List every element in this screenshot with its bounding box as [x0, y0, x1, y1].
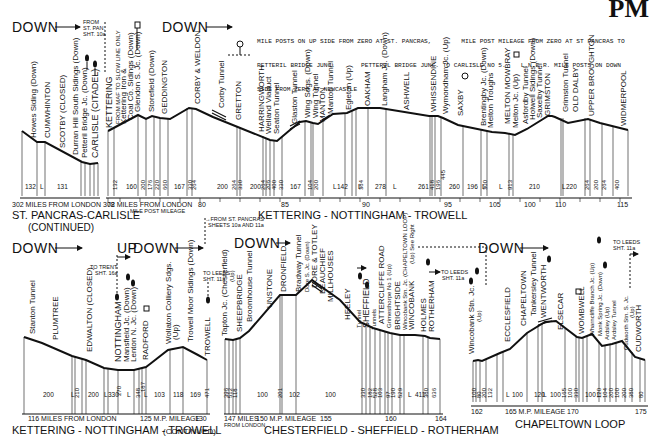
panel-chesterfield-sheffield-rotherham: →FROM ST. PANCRAS SHEETS 10a AND 11a DOW… [205, 213, 499, 436]
svg-text:167: 167 [290, 183, 301, 190]
station-glaston-tunnel: Glaston Tunnel [290, 70, 299, 124]
svg-text:200: 200 [621, 387, 627, 398]
svg-text:196: 196 [467, 183, 478, 190]
station-oakham: OAKHAM [363, 71, 372, 106]
station-widmerpool: WIDMERPOOL [619, 70, 628, 126]
station-manton-tunnel: Manton Tunnel [326, 61, 335, 114]
axis-label-miles: 72 MILES FROM LONDON [107, 201, 192, 208]
svg-text:913: 913 [507, 179, 513, 190]
svg-text:167: 167 [174, 183, 185, 190]
signal-box-icon [135, 22, 140, 28]
svg-text:170: 170 [567, 408, 579, 415]
svg-text:110: 110 [555, 201, 566, 208]
station-trowell: TROWELL [203, 317, 212, 356]
svg-text:529: 529 [397, 387, 403, 398]
station-carlisle: CARLISLE (CITADEL) [90, 69, 100, 158]
station-cumwhinton: CUMWHINTON [43, 81, 52, 138]
svg-text:260: 260 [449, 183, 460, 190]
station-tankersley-tunnel: Tankersley Tunnel [529, 251, 538, 316]
station-heeley: HEELEY [343, 288, 352, 320]
axis-sublabel: MILE POST MILEAGE [130, 208, 186, 214]
svg-text:100: 100 [257, 391, 268, 398]
station-brightside: BRIGHTSIDE [393, 281, 402, 330]
svg-text:660: 660 [162, 179, 168, 190]
svg-text:175: 175 [635, 408, 647, 415]
svg-text:132: 132 [25, 183, 36, 190]
svg-text:380: 380 [423, 387, 429, 398]
svg-text:210: 210 [74, 387, 80, 398]
svg-text:278: 278 [375, 183, 386, 190]
svg-text:L: L [40, 183, 44, 190]
svg-text:L: L [543, 391, 547, 398]
direction-down-label: DOWN [12, 19, 58, 35]
svg-text:115: 115 [617, 201, 628, 208]
station-wincobank: WINCOBANK [407, 280, 416, 330]
axis-label-miles: 116 MILES FROM LONDON [28, 415, 117, 422]
station-old-dalby: OLD DALBY [571, 66, 580, 112]
svg-text:80: 80 [198, 201, 206, 208]
station-trowell-moor: Trowell Moor Sidings (Down) [186, 239, 195, 342]
svg-text:201: 201 [277, 387, 283, 398]
svg-text:100: 100 [512, 391, 523, 398]
station-ardsley: Ardsley (Up) [604, 307, 610, 340]
station-tapton-jc: Tapton Jc. (Chesterfield) [220, 249, 229, 336]
svg-text:384: 384 [358, 179, 364, 190]
station-lenton-jc: Lenton N. Jc. (Down) [129, 287, 138, 362]
direction-down-label: DOWN [234, 235, 280, 251]
axis-label-miles: 162 [471, 408, 483, 415]
svg-text:200: 200 [593, 179, 599, 190]
station-melton-jc: Melton Jc. (Up) [511, 73, 520, 128]
svg-text:100: 100 [524, 201, 536, 208]
svg-text:SHT. 11a: SHT. 11a [613, 245, 636, 251]
panel-kettering-nottingham-trowell-continued: DOWN UP DOWN TO TRENT SHT. 16a TO LEEDS … [12, 239, 230, 436]
svg-text:(Up): (Up) [171, 324, 180, 340]
svg-text:220: 220 [566, 183, 577, 190]
station-seaton-tunnel: Seaton Tunnel [272, 82, 281, 134]
svg-text:L: L [506, 391, 510, 398]
direction-down-label: DOWN [478, 240, 524, 256]
station-melton-troughs: Melton Troughs [486, 73, 495, 128]
station-monk-spring-jc: Monk Spring Jc. (Down) [597, 272, 603, 336]
svg-text:L: L [499, 183, 503, 190]
svg-text:131: 131 [57, 183, 68, 190]
svg-text:200: 200 [313, 179, 319, 190]
svg-text:400: 400 [614, 179, 620, 190]
station-wentworth: WENTWORTH [539, 264, 548, 318]
station-glendon: Glendon S. Jc. (Down) [133, 31, 142, 112]
svg-text:95: 95 [444, 201, 452, 208]
station-whissendine: WHISSENDINE [429, 56, 438, 112]
svg-text:105: 105 [489, 201, 501, 208]
svg-text:471: 471 [204, 387, 210, 398]
station-edwalton: EDWALTON (CLOSED) [85, 267, 94, 352]
station-ashwell: ASHWELL [402, 71, 411, 110]
svg-text:160: 160 [126, 183, 137, 190]
station-cudworth: CUDWORTH [634, 304, 643, 352]
svg-text:100: 100 [325, 391, 336, 398]
station-radford: RADFORD [141, 320, 150, 360]
panel-subtitle: (CONTINUED) [28, 222, 94, 233]
svg-text:85: 85 [281, 201, 289, 208]
svg-text:330: 330 [573, 387, 579, 398]
svg-text:100: 100 [614, 387, 620, 398]
svg-text:L: L [408, 391, 412, 398]
station-langham-jc: Langham Jc. (Down) [380, 32, 389, 106]
svg-text:300: 300 [482, 179, 488, 190]
station-kettering: KETTERING [104, 76, 114, 128]
svg-text:380: 380 [628, 387, 634, 398]
axis-label-miles: 302 MILES FROM LONDON 308 [12, 201, 115, 208]
station-cudworth-stn-jc: Cudworth Stn. S. Jc. [623, 295, 629, 350]
station-egleton: Egleton (Up) [344, 65, 353, 110]
station-geddington: GEDDINGTON [160, 60, 169, 114]
svg-text:164: 164 [435, 415, 447, 422]
svg-text:190: 190 [390, 387, 396, 398]
station-petteril-bridge: Petteril Bridge Jc. (Down) [80, 67, 89, 158]
station-elsecar: ELSECAR [556, 292, 565, 330]
svg-text:132: 132 [112, 179, 118, 190]
svg-text:400: 400 [271, 179, 277, 190]
station-attercliffe-road: ATTERCLIFFE ROAD [377, 245, 386, 324]
direction-down-label: DOWN [12, 240, 58, 256]
panel-kettering-nottingham-trowell: DOWN [104, 19, 632, 221]
svg-text:103: 103 [154, 391, 165, 398]
svg-text:261: 261 [418, 183, 429, 190]
svg-text:264: 264 [601, 179, 607, 190]
